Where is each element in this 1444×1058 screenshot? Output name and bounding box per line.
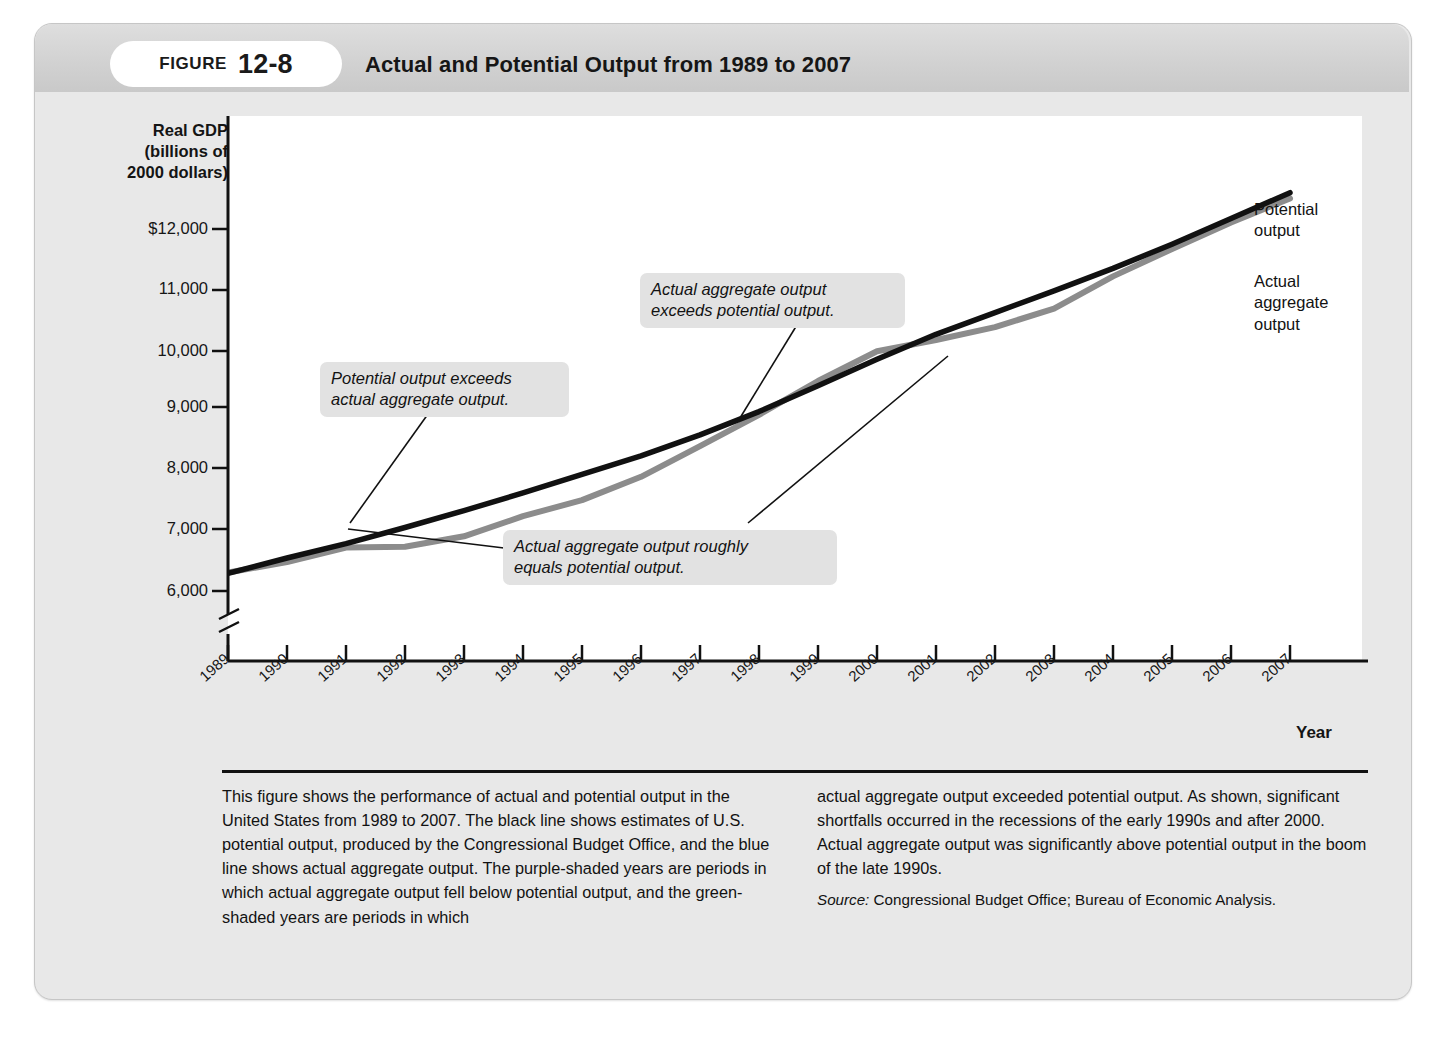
caption-text-right: actual aggregate output exceeded potenti… (817, 784, 1370, 880)
caption-text-left: This figure shows the performance of act… (222, 784, 775, 929)
series-label-potential-output: Potential output (1254, 199, 1318, 242)
source-label: Source: (817, 891, 869, 908)
annotation-actual-equals-potential: Actual aggregate output roughly equals p… (503, 530, 837, 585)
caption-source: Source: Congressional Budget Office; Bur… (817, 889, 1370, 910)
caption-divider (222, 770, 1368, 773)
annotation-actual-exceeds-potential: Actual aggregate output exceeds potentia… (640, 273, 905, 328)
source-text: Congressional Budget Office; Bureau of E… (874, 891, 1276, 908)
caption-columns: This figure shows the performance of act… (222, 784, 1370, 929)
annotation-leader-lines (348, 320, 948, 548)
figure-page: FIGURE 12-8 Actual and Potential Output … (0, 0, 1444, 1058)
x-axis-title: Year (1296, 723, 1332, 743)
leader-actual-equals-potential-left (348, 529, 504, 548)
caption-column-left: This figure shows the performance of act… (222, 784, 775, 929)
annotation-potential-exceeds-actual: Potential output exceeds actual aggregat… (320, 362, 569, 417)
caption-column-right: actual aggregate output exceeded potenti… (817, 784, 1370, 929)
leader-actual-exceeds-potential (740, 320, 800, 418)
leader-potential-exceeds-actual (350, 414, 428, 523)
y-axis-ticks (212, 229, 228, 591)
leader-actual-equals-potential-right (748, 356, 948, 523)
series-label-actual-aggregate-output: Actual aggregate output (1254, 271, 1328, 335)
